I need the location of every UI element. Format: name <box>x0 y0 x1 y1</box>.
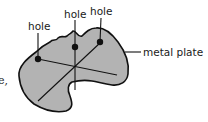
hole-right-dot <box>97 39 103 45</box>
metal-plate-diagram: e, hole hole hole metal plate <box>0 0 208 122</box>
hole-middle-dot <box>72 44 78 50</box>
label-hole-left: hole <box>28 20 50 32</box>
label-hole-right: hole <box>90 5 112 17</box>
hole-left-dot <box>35 56 41 62</box>
text-fragment: e, <box>0 74 8 87</box>
metal-plate-shape <box>19 28 128 112</box>
label-metal-plate: metal plate <box>143 46 203 58</box>
label-hole-middle: hole <box>64 8 86 20</box>
